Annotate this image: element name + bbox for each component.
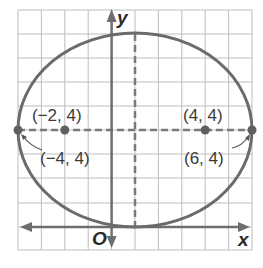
focus-right-point xyxy=(201,126,210,135)
vertex-left-point xyxy=(14,126,23,135)
focus-left-label: (−2, 4) xyxy=(32,106,82,125)
y-axis-arrow-down-icon xyxy=(107,236,117,248)
vertex-right-point xyxy=(248,126,257,135)
ellipse-diagram: y x O (−2, 4) (4, 4) (−4, 4) (6, 4) xyxy=(0,0,263,268)
y-axis-arrow-up-icon xyxy=(107,9,117,22)
y-axis-label: y xyxy=(116,7,129,28)
origin-label: O xyxy=(92,228,107,249)
vertex-right-label: (6, 4) xyxy=(184,149,224,168)
focus-right-label: (4, 4) xyxy=(183,106,223,125)
leader-vertex-left xyxy=(23,136,42,150)
focus-left-point xyxy=(60,126,69,135)
leader-vertex-right xyxy=(232,137,248,148)
x-axis-label: x xyxy=(237,229,250,250)
vertex-left-label: (−4, 4) xyxy=(40,149,90,168)
x-axis-arrow-left-icon xyxy=(20,222,32,232)
